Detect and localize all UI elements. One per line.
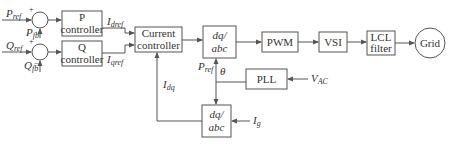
p-ref-2-label: Pref <box>197 60 215 74</box>
sum-junction-p <box>32 12 48 28</box>
control-block-diagram: Pref + Pfb Qref + − Qfb P controller Q c… <box>0 0 455 144</box>
pll-block: PLL <box>246 69 287 89</box>
sum-junction-q <box>32 44 48 60</box>
v-ac-label: VAC <box>311 72 329 86</box>
i-qref-label: Iqref <box>106 53 125 67</box>
lcl-filter-block: LCL filter <box>367 31 395 55</box>
svg-text:filter: filter <box>370 42 392 54</box>
grid-node: Grid <box>415 28 445 58</box>
svg-text:P: P <box>79 11 85 23</box>
i-qref-line <box>102 45 134 53</box>
svg-text:abc: abc <box>209 121 225 133</box>
svg-text:controller: controller <box>61 53 104 65</box>
q-ref-plus-sign: + <box>29 37 34 46</box>
pwm-block: PWM <box>262 32 298 52</box>
svg-text:Q: Q <box>78 41 86 53</box>
vsi-block: VSI <box>319 32 347 52</box>
i-g-label: Ig <box>252 114 261 128</box>
svg-text:abc: abc <box>212 42 228 54</box>
p-controller-block: P controller <box>61 11 104 36</box>
dq-abc-bottom-block: dq/ abc <box>202 105 231 137</box>
p-ref-label: Pref <box>5 7 23 21</box>
theta-label: θ <box>220 65 226 77</box>
i-dref-label: Idref <box>106 15 125 29</box>
p-ref-plus-sign: + <box>29 5 34 14</box>
i-dq-label: Idq <box>162 78 175 92</box>
svg-text:dq/: dq/ <box>209 108 224 120</box>
current-controller-block: Current controller <box>135 27 182 52</box>
q-ref-label: Qref <box>6 39 24 53</box>
q-controller-block: Q controller <box>61 41 104 66</box>
svg-text:VSI: VSI <box>324 36 342 48</box>
svg-text:Current: Current <box>142 27 176 39</box>
svg-text:controller: controller <box>61 23 104 35</box>
svg-text:PLL: PLL <box>257 73 277 85</box>
svg-text:dq/: dq/ <box>212 29 227 41</box>
svg-text:controller: controller <box>137 39 180 51</box>
svg-text:PWM: PWM <box>267 36 294 48</box>
svg-text:Grid: Grid <box>420 37 441 49</box>
dq-abc-top-block: dq/ abc <box>203 26 236 58</box>
